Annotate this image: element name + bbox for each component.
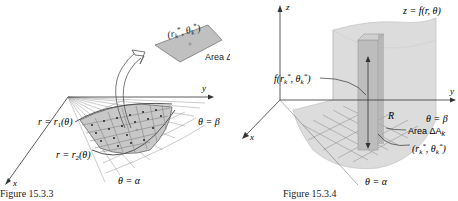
x-axis-label: x [249,132,254,142]
area-label: Area ΔAk [408,126,446,137]
r2-label: r = r2(θ) [56,149,91,162]
z-arrow-icon [278,5,283,12]
height-label: f(rk*, θk*) [274,72,311,86]
x-axis-label: x [12,178,17,188]
y-axis-label: y [449,86,454,96]
theta-alpha-label: θ = α [118,175,141,186]
surface-label: z = f(r, θ) [402,5,441,17]
y-axis-label: y [201,83,206,93]
figure-caption-right: Figure 15.3.4 [283,188,337,199]
z-axis-label: z [285,2,290,12]
polar-region-diagram: (rk*, θk*) Area Δ Area ΔA r = r1(θ) r = … [0,0,230,201]
theta-beta-label: θ = β [426,113,448,124]
theta-beta-label: θ = β [198,116,220,127]
x-axis [246,100,280,135]
point-label: (rk*, θk*) [412,142,446,156]
y-arrow-icon [208,95,214,100]
r1-label: r = r1(θ) [38,116,73,129]
figure-15-3-3: (rk*, θk*) Area Δ Area ΔA r = r1(θ) r = … [0,0,230,201]
figure-caption-left: Figure 15.3.3 [0,188,54,199]
x-axis [8,97,68,181]
theta-alpha-label: θ = α [365,176,388,187]
region-label: R [387,110,394,121]
x-arrow-icon [5,178,11,185]
inset-area-label: Area Δ [205,52,230,62]
arrow-head-icon [132,50,145,64]
y-arrow-icon [450,98,456,103]
volume-diagram: z = f(r, θ) z y x f(rk*, θk*) R θ = β Ar… [228,0,458,201]
figure-15-3-4: z = f(r, θ) z y x f(rk*, θk*) R θ = β Ar… [228,0,458,201]
